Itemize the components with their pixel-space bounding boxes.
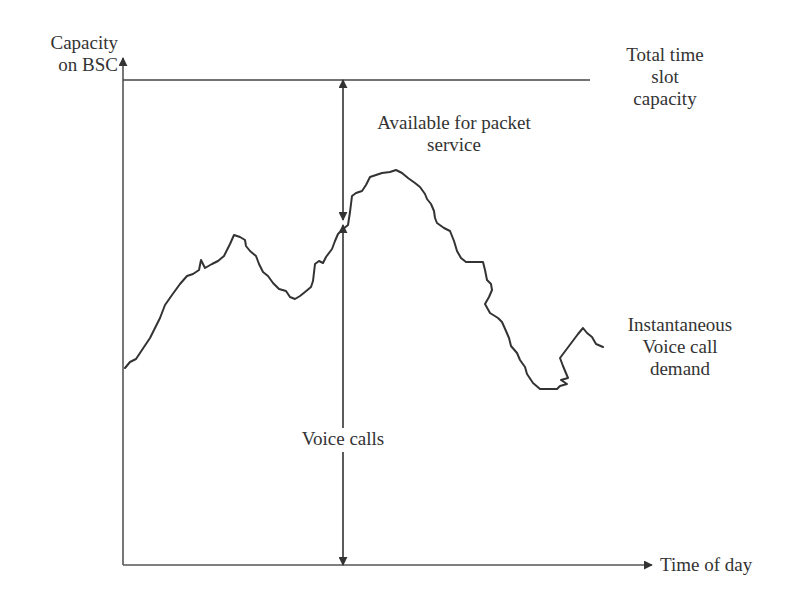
demand-curve-label-line-3: demand: [600, 358, 760, 380]
voice-calls-label-text: Voice calls: [283, 428, 403, 450]
packet-service-label-line-2: service: [354, 134, 554, 156]
total-capacity-label-line-3: capacity: [610, 88, 720, 110]
packet-service-label: Available for packet service: [354, 112, 554, 156]
y-axis-label-line-2: on BSC: [28, 54, 118, 76]
total-capacity-label: Total time slot capacity: [610, 44, 720, 110]
voice-demand-curve: [125, 170, 603, 389]
total-capacity-label-line-2: slot: [610, 66, 720, 88]
total-capacity-label-line-1: Total time: [610, 44, 720, 66]
x-axis-label: Time of day: [660, 554, 780, 576]
demand-curve-label-line-2: Voice call: [600, 336, 760, 358]
bsc-capacity-diagram: Capacity on BSC Total time slot capacity…: [0, 0, 801, 608]
demand-curve-label: Instantaneous Voice call demand: [600, 314, 760, 380]
demand-curve-label-line-1: Instantaneous: [600, 314, 760, 336]
packet-service-label-line-1: Available for packet: [354, 112, 554, 134]
y-axis-label: Capacity on BSC: [28, 32, 118, 76]
voice-calls-label: Voice calls: [283, 428, 403, 450]
x-axis-label-text: Time of day: [660, 554, 780, 576]
y-axis-label-line-1: Capacity: [28, 32, 118, 54]
